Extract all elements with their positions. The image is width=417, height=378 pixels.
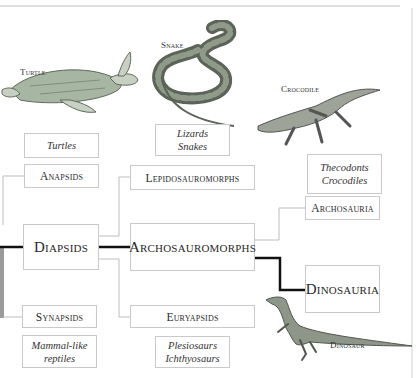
example-box-turtles: Turtles bbox=[24, 133, 99, 158]
group-box-synapsids: Synapsids bbox=[22, 305, 97, 328]
example-box-plesiosaurs-ichthyosaurs: Plesiosaurs Ichthyosaurs bbox=[155, 336, 230, 368]
group-box-anapsids: Anapsids bbox=[24, 164, 99, 188]
group-box-euryapsids: Euryapsids bbox=[130, 305, 255, 328]
snake-illustration bbox=[148, 20, 240, 130]
group-box-archosauria: Archosauria bbox=[305, 196, 380, 220]
dinosaur-label: Dinosaur bbox=[330, 340, 365, 350]
group-box-dinosauria: Dinosauria bbox=[305, 265, 380, 313]
group-box-diapsids: Diapsids bbox=[23, 224, 99, 270]
group-box-lepidosauromorphs: Lepidosauromorphs bbox=[130, 165, 255, 190]
crocodile-illustration bbox=[256, 76, 386, 150]
example-box-lizards-snakes: Lizards Snakes bbox=[155, 124, 230, 156]
example-box-mammal-like-reptiles: Mammal-like reptiles bbox=[22, 335, 97, 368]
group-box-archosauromorphs: Archosauromorphs bbox=[130, 223, 255, 271]
snake-label: Snake bbox=[161, 40, 184, 50]
example-box-thecodonts-crocodiles: Thecodonts Crocodiles bbox=[307, 154, 382, 194]
turtle-illustration bbox=[0, 50, 140, 122]
crocodile-label: Crocodile bbox=[281, 84, 319, 94]
turtle-label: Turtle bbox=[20, 67, 46, 77]
